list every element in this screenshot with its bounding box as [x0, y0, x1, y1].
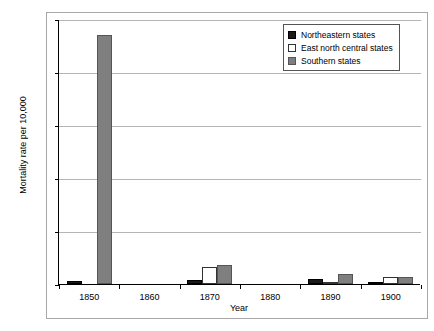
legend-swatch-icon [288, 31, 296, 39]
x-axis-tick [119, 285, 120, 289]
legend-swatch-icon [288, 44, 296, 52]
x-axis-tick-label: 1850 [59, 292, 119, 302]
bar-group [180, 19, 240, 284]
bar-group [119, 19, 179, 284]
chart-legend: Northeastern states East north central s… [283, 24, 400, 71]
legend-label: East north central states [301, 43, 393, 53]
chart-figure: Mortality rate per 10,000 0.000.050.100.… [0, 0, 434, 331]
bar [97, 35, 112, 284]
x-axis-title: Year [58, 303, 420, 313]
x-axis-tick [300, 285, 301, 289]
bar [323, 282, 338, 285]
bar [368, 282, 383, 285]
bar-group [59, 19, 119, 284]
x-axis-tick-label: 1880 [240, 292, 300, 302]
bar [202, 267, 217, 284]
bar [187, 280, 202, 284]
legend-label: Northeastern states [301, 30, 375, 40]
y-axis-title: Mortality rate per 10,000 [18, 70, 28, 220]
x-axis-tick-label: 1890 [301, 292, 361, 302]
x-axis-tick [180, 285, 181, 289]
x-axis-tick [361, 285, 362, 289]
x-axis-tick [59, 285, 60, 289]
x-axis-tick-label: 1870 [180, 292, 240, 302]
x-axis-tick-label: 1860 [120, 292, 180, 302]
x-axis-tick [421, 285, 422, 289]
x-axis-tick-label: 1900 [361, 292, 421, 302]
legend-swatch-icon [288, 57, 296, 65]
legend-label: Southern states [301, 56, 361, 66]
legend-item-southern: Southern states [288, 54, 393, 67]
x-axis-tick [240, 285, 241, 289]
bar [338, 274, 353, 284]
bar [67, 281, 82, 284]
bar [398, 277, 413, 284]
legend-item-northeastern: Northeastern states [288, 28, 393, 41]
bar [217, 265, 232, 284]
legend-item-east-north-central: East north central states [288, 41, 393, 54]
bar [308, 279, 323, 284]
bar [383, 277, 398, 284]
